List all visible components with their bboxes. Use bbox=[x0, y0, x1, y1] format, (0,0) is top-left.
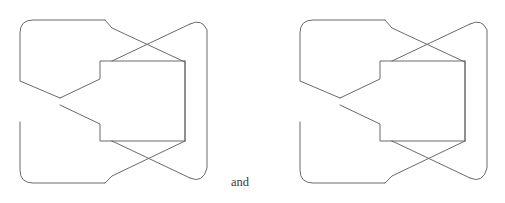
bottom-crossing-ascending-strand bbox=[385, 141, 465, 183]
conjunction-label: and bbox=[231, 175, 250, 189]
outer-left-lower-strand bbox=[300, 122, 385, 183]
outer-left-upper-strand bbox=[20, 20, 105, 98]
top-crossing-descending-strand bbox=[385, 20, 465, 62]
outer-left-upper-strand bbox=[300, 20, 385, 98]
knot-diagram-pair-figure: and bbox=[0, 0, 505, 203]
figure-canvas: and bbox=[0, 0, 505, 203]
right-knot-diagram bbox=[300, 20, 487, 183]
middle-crossing-lower-strand bbox=[60, 105, 112, 141]
left-knot-diagram bbox=[20, 20, 207, 183]
bottom-crossing-descending-strand bbox=[112, 141, 190, 178]
top-crossing-descending-strand bbox=[105, 20, 185, 62]
bottom-crossing-descending-strand bbox=[392, 141, 470, 178]
right-cap-outer-edge bbox=[470, 22, 487, 180]
right-cap-outer-edge bbox=[190, 22, 207, 180]
outer-left-lower-strand bbox=[20, 122, 105, 183]
bottom-crossing-ascending-strand bbox=[105, 141, 185, 183]
middle-crossing-lower-strand bbox=[340, 105, 392, 141]
